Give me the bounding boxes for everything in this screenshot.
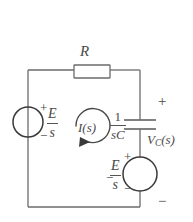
capacitor-impedance-label: 1 sC [110,110,126,141]
voltage-source-left-numerator: E [47,107,58,122]
circuit-schematic-svg [0,0,193,222]
voltage-source-left-denominator: s [47,125,58,140]
output-voltage-plus: + [158,94,166,109]
resistor-label: R [80,44,89,59]
output-voltage-argument: (s) [161,132,175,147]
output-voltage-minus: − [158,194,166,209]
capacitor-impedance-fraction-bar [110,125,126,126]
voltage-source-left-value: E s [47,107,58,140]
voltage-source-right-plus: + [124,150,131,163]
output-voltage-label: VC(s) [147,133,175,149]
capacitor-impedance-numerator: 1 [110,110,126,124]
voltage-source-right-polarity-minus: − [124,182,131,195]
mesh-current-label: I(s) [78,121,96,134]
voltage-source-right-minus: − [106,171,113,184]
capacitor-impedance-denominator: sC [110,127,126,141]
output-voltage-symbol: V [147,132,155,147]
voltage-source-left-fraction-bar [47,123,58,124]
resistor-body [74,65,110,78]
mesh-current-arrowhead [79,137,90,147]
voltage-source-left-minus: − [40,129,47,142]
circuit-diagram-canvas: R + E s − I(s) 1 sC + E s − − + VC(s) − [0,0,193,222]
